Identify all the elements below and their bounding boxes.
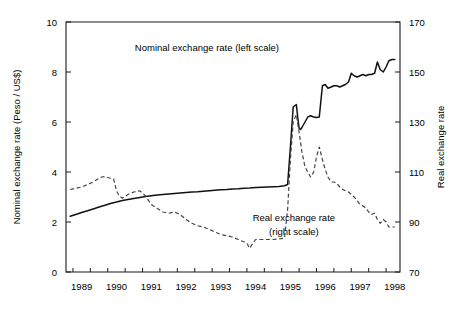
x-tick-label: 1996 — [315, 281, 336, 292]
x-tick-label: 1998 — [384, 281, 405, 292]
exchange-rate-chart: 1989199019911992199319941995199619971998… — [0, 0, 456, 315]
plot-frame — [66, 22, 400, 272]
chart-canvas: 1989199019911992199319941995199619971998… — [0, 0, 456, 315]
nominal-exchange-rate-line — [70, 60, 395, 217]
x-tick-label: 1994 — [245, 281, 266, 292]
x-tick-label: 1997 — [349, 281, 370, 292]
y2-tick-label: 170 — [409, 17, 425, 28]
x-tick-label: 1990 — [106, 281, 127, 292]
chart-annotations: Nominal exchange rate (left scale)Real e… — [135, 42, 335, 237]
y-tick-label: 6 — [52, 117, 57, 128]
y2-tick-label: 90 — [409, 217, 420, 228]
y-axis-left-tick-labels: 0246810 — [46, 17, 57, 278]
plot-border — [66, 22, 400, 272]
x-tick-label: 1991 — [141, 281, 162, 292]
series-annotation: Nominal exchange rate (left scale) — [135, 42, 279, 53]
y2-tick-label: 130 — [409, 117, 425, 128]
x-axis-tick-labels: 1989199019911992199319941995199619971998 — [71, 281, 405, 292]
x-axis-ticks — [73, 268, 386, 272]
series-lines — [70, 60, 395, 249]
series-annotation: (right scale) — [269, 226, 319, 237]
y-axis-left-title: Nominal exchange rate (Peso / US$) — [11, 70, 22, 225]
y2-tick-label: 150 — [409, 67, 425, 78]
x-tick-label: 1992 — [175, 281, 196, 292]
y-tick-label: 10 — [46, 17, 57, 28]
y2-tick-label: 110 — [409, 167, 424, 178]
x-tick-label: 1995 — [280, 281, 301, 292]
y-axis-right-title: Real exchange rate — [435, 106, 446, 188]
y-tick-label: 2 — [52, 217, 57, 228]
y-tick-label: 0 — [52, 267, 57, 278]
series-annotation: Real exchange rate — [253, 212, 335, 223]
y2-tick-label: 70 — [409, 267, 420, 278]
y-tick-label: 4 — [52, 167, 57, 178]
x-tick-label: 1989 — [71, 281, 92, 292]
y-axis-left-ticks — [66, 22, 71, 272]
y-axis-right-tick-labels: 7090110130150170 — [409, 17, 425, 278]
x-tick-label: 1993 — [210, 281, 231, 292]
real-exchange-rate-line — [70, 115, 395, 249]
y-tick-label: 8 — [52, 67, 57, 78]
y-axis-right-ticks — [395, 22, 400, 272]
